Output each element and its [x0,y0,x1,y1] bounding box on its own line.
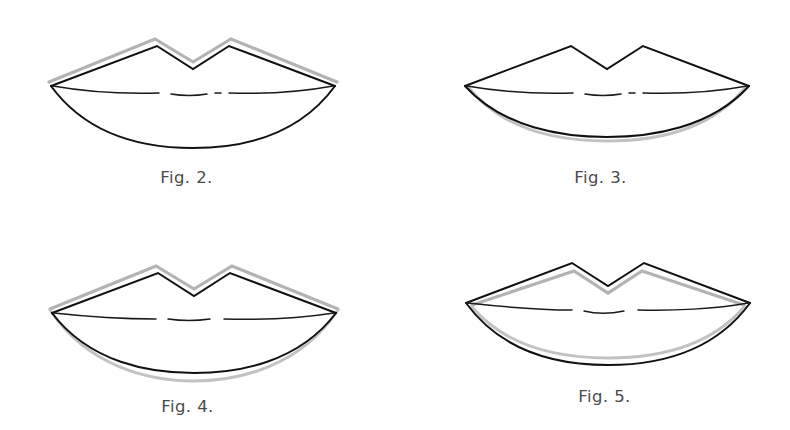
mouth-line-right [229,86,333,93]
mouth-line-mid-a [585,94,621,96]
figure-plate: Fig. 2. Fig. 3. [0,0,790,430]
guide-line-upper [50,266,338,309]
guide-line-lower-inset [472,307,744,358]
guide-line-upper-inset [472,271,744,305]
figure-panel-fig-5: Fig. 5. [395,215,790,430]
lower-lip-outline [466,303,750,365]
mouth-line-right [643,86,747,93]
figure-panel-fig-2: Fig. 2. [0,0,395,215]
mouth-line-left [54,313,156,319]
mouth-line-right [224,313,334,319]
figure-grid: Fig. 2. Fig. 3. [0,0,790,430]
figure-caption-fig-3: Fig. 3. [574,168,626,187]
lips-illustration-fig-5 [458,237,758,369]
figure-caption-fig-5: Fig. 5. [578,387,630,406]
guide-line-upper [49,39,337,82]
lower-lip-outline [465,86,749,137]
mouth-line-left [467,86,573,93]
figure-caption-fig-4: Fig. 4. [161,397,213,416]
mouth-line-left [468,303,572,310]
lips-illustration-fig-2 [43,20,343,152]
figure-caption-fig-2: Fig. 2. [160,168,212,187]
lips-illustration-fig-3 [457,20,757,152]
mouth-line-left [53,86,159,93]
upper-lip-outline [51,46,335,86]
lips-illustration-fig-4 [44,247,344,379]
mouth-line-right [638,303,748,310]
mouth-line-mid-a [168,319,210,321]
lower-lip-outline [52,313,336,373]
figure-panel-fig-4: Fig. 4. [0,215,395,430]
upper-lip-outline [52,273,336,313]
mouth-line-mid-a [584,311,624,313]
mouth-line-mid-a [171,94,207,96]
upper-lip-outline [465,46,749,86]
figure-panel-fig-3: Fig. 3. [395,0,790,215]
upper-lip-outline [466,263,750,303]
